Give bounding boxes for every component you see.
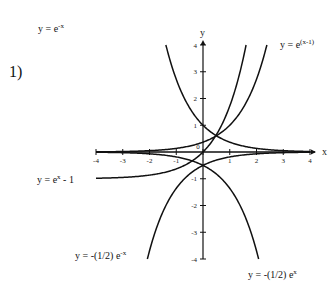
y-axis-arrow-icon <box>201 40 206 45</box>
y-tick-label: 1 <box>194 122 198 130</box>
y-tick-label: -2 <box>191 202 197 210</box>
x-axis-arrow-icon <box>311 150 316 155</box>
x-tick-label: 2 <box>255 157 259 165</box>
y-tick-label: 4 <box>194 42 198 50</box>
label-neg-half-e-neg-x: y = -(1/2) e-x <box>75 251 126 261</box>
label-neg-half-e-x: y = -(1/2) ex <box>248 270 297 280</box>
curve-0 <box>166 45 310 152</box>
x-tick-label: -1 <box>173 157 179 165</box>
x-tick-label: 1 <box>228 157 232 165</box>
x-tick-label: -2 <box>147 157 153 165</box>
x-tick-label: 4 <box>308 157 312 165</box>
y-tick-label: -4 <box>191 256 197 264</box>
label-e-neg-x: y = e-x <box>38 24 64 34</box>
x-tick-label: -4 <box>93 157 99 165</box>
curve-3 <box>147 152 310 259</box>
y-tick-label: -3 <box>191 229 197 237</box>
label-e-x-minus-one-shift: y = ex - 1 <box>37 175 74 185</box>
x-tick-label: -3 <box>120 157 126 165</box>
y-axis-label: y <box>200 27 205 38</box>
label-e-x-minus-1: y = e(x-1) <box>280 40 314 50</box>
curve-1 <box>96 45 267 152</box>
x-axis-label: x <box>322 146 327 157</box>
y-tick-label: -1 <box>191 175 197 183</box>
x-tick-label: 3 <box>282 157 286 165</box>
axes: -4-3-2-101234-4-3-2-11234xy <box>93 27 327 264</box>
y-tick-label: 3 <box>194 68 198 76</box>
y-tick-label: 2 <box>194 95 198 103</box>
